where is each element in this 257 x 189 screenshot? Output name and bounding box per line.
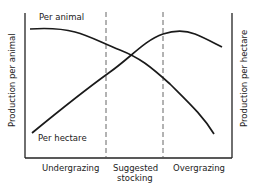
region-undergrazing-label: Undergrazing [42,163,99,173]
per-animal-label: Per animal [39,12,84,22]
region-suggested-label-line2: stocking [117,173,153,183]
per-animal-curve [30,28,214,134]
region-overgrazing-label: Overgrazing [173,163,225,173]
grazing-production-chart: Per animal Per hectare Production per an… [0,0,257,189]
per-hectare-label: Per hectare [38,133,87,143]
per-hectare-curve [32,31,222,133]
y-axis-left-label: Production per animal [7,33,17,127]
region-suggested-label-line1: Suggested [113,163,158,173]
y-axis-right-label: Production per hectare [239,30,249,127]
